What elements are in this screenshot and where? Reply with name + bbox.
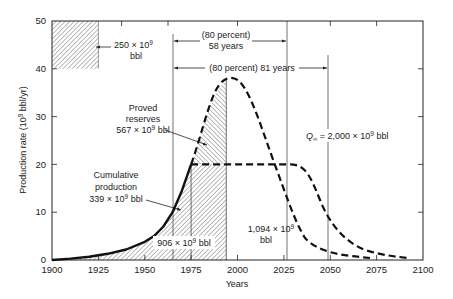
y-axis-title: Production rate (109 bbl/yr): [17, 86, 28, 194]
svg-text:reserves: reserves: [126, 114, 161, 124]
svg-text:58 years: 58 years: [209, 41, 244, 51]
svg-text:30: 30: [35, 111, 46, 122]
svg-text:1900: 1900: [41, 264, 62, 275]
svg-text:(80 percent) 81 years: (80 percent) 81 years: [209, 63, 295, 73]
cumulative-production-label: Cumulative production 339 × 109 bbl: [89, 170, 142, 204]
y-tick-labels: 0 10 20 30 40 50: [35, 15, 46, 265]
x-axis-title: Years: [226, 279, 249, 289]
svg-text:20: 20: [35, 159, 46, 170]
svg-text:bbl: bbl: [130, 51, 142, 61]
svg-text:Proved: Proved: [129, 103, 158, 113]
svg-text:40: 40: [35, 63, 46, 74]
x-tick-labels: 1900 1925 1950 1975 2000 2025 2050 2075 …: [41, 264, 433, 275]
svg-text:2100: 2100: [412, 264, 433, 275]
total-906-label: 906 × 109 bbl: [153, 236, 215, 249]
svg-text:50: 50: [35, 15, 46, 26]
span-81-label: (80 percent) 81 years: [209, 63, 295, 73]
svg-text:1950: 1950: [134, 264, 155, 275]
svg-text:250 × 109: 250 × 109: [114, 39, 153, 50]
svg-text:10: 10: [35, 206, 46, 217]
oil-production-chart: 0 10 20 30 40 50 1900 1925 1950 1975 200…: [0, 0, 453, 299]
svg-text:906 × 109 bbl: 906 × 109 bbl: [157, 237, 210, 248]
svg-text:production: production: [95, 182, 137, 192]
svg-text:1925: 1925: [88, 264, 109, 275]
svg-text:2000: 2000: [227, 264, 248, 275]
svg-text:(80 percent): (80 percent): [202, 30, 251, 40]
svg-text:Cumulative: Cumulative: [93, 170, 138, 180]
svg-text:2025: 2025: [273, 264, 294, 275]
remaining-1094-label: 1,094 × 109 bbl: [248, 223, 295, 245]
svg-text:Q∞ = 2,000 × 109 bbl: Q∞ = 2,000 × 109 bbl: [306, 130, 388, 142]
q-infinity-label: Q∞ = 2,000 × 109 bbl: [304, 129, 402, 142]
scale-reference-box: [52, 21, 98, 69]
svg-text:1975: 1975: [181, 264, 202, 275]
svg-text:bbl: bbl: [260, 235, 272, 245]
span-58-label: (80 percent) 58 years: [202, 30, 251, 51]
svg-text:339 × 109 bbl: 339 × 109 bbl: [89, 193, 142, 204]
svg-text:2050: 2050: [320, 264, 341, 275]
scale-box-label: 250 × 109 bbl: [112, 36, 168, 62]
svg-text:1,094 × 109: 1,094 × 109: [248, 223, 295, 234]
svg-text:2075: 2075: [366, 264, 387, 275]
svg-text:567 × 109 bbl: 567 × 109 bbl: [116, 124, 169, 135]
proved-reserves-label: Proved reserves 567 × 109 bbl: [116, 103, 169, 135]
